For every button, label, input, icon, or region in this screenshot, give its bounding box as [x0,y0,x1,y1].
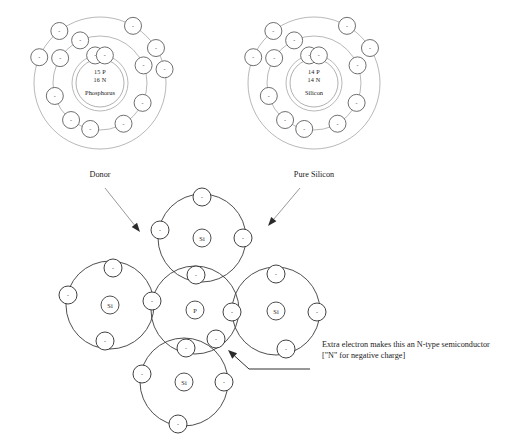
svg-text:-: - [195,272,197,278]
svg-text:-: - [275,271,277,277]
silicon-neutrons-label: 14 N [307,76,320,83]
lattice-electron-bond-right-p: - [223,303,241,321]
svg-text:-: - [159,227,161,233]
donor-electron-6: - [63,112,80,129]
annotation-leader-line [235,356,310,369]
semiconductor-figure: 15 P 16 N Phosphorus --------------- Don… [0,0,517,446]
doped-silicon-lattice: SiSiPSiSi ----------------- [59,188,326,433]
svg-text:-: - [285,346,287,352]
lattice-electron-si-left-north: - [104,259,122,277]
svg-text:-: - [185,345,187,351]
svg-text:-: - [123,121,125,127]
svg-text:-: - [215,336,217,342]
silicon-electron-4: - [266,50,283,67]
donor-electron-9: - [134,94,151,111]
svg-text:-: - [252,54,254,60]
lattice-core-p-center: P [186,301,204,319]
lattice-atom-cores: SiSiPSiSi [101,229,285,391]
lattice-electron-si-right-east: - [308,303,326,321]
donor-electron-15: - [156,61,173,78]
svg-text:-: - [112,265,114,271]
svg-text:-: - [272,28,274,34]
donor-electron-13: - [125,17,142,34]
svg-text:-: - [142,100,144,106]
svg-text:-: - [70,117,72,123]
donor-electron-4: - [52,50,69,67]
svg-text:-: - [273,55,275,61]
donor-electron-3: - [72,32,89,49]
svg-text:Si: Si [273,308,279,315]
svg-text:-: - [223,379,225,385]
svg-text:-: - [164,66,166,72]
donor-electron-8: - [115,115,132,132]
silicon-electron-12: - [245,49,262,66]
svg-text:Si: Si [181,379,187,386]
lattice-electron-si-bottom-west: - [133,365,151,383]
svg-text:-: - [177,421,179,427]
annotation-leader [228,350,310,369]
donor-electron-11: - [51,22,68,39]
donor-electron-12: - [31,49,48,66]
donor-electron-7: - [82,120,99,137]
svg-text:-: - [356,100,358,106]
lattice-core-si-top: Si [193,229,211,247]
svg-text:-: - [58,28,60,34]
silicon-electron-8: - [329,115,346,132]
svg-text:-: - [284,117,286,123]
svg-text:-: - [346,23,348,29]
lattice-core-si-left: Si [101,296,119,314]
svg-text:Si: Si [107,302,113,309]
svg-text:-: - [94,52,96,58]
svg-text:-: - [357,62,359,68]
silicon-electron-9: - [348,94,365,111]
arrow-donor-to-lattice [105,188,140,232]
svg-text:-: - [308,52,310,58]
svg-text:-: - [104,52,106,58]
donor-electron-14: - [147,40,164,57]
svg-text:-: - [293,37,295,43]
svg-text:-: - [151,298,153,304]
svg-text:-: - [67,292,69,298]
donor-electron-10: - [135,57,152,74]
svg-text:P: P [193,307,197,314]
lattice-electron-si-bottom-south: - [169,415,187,433]
lattice-electron-si-right-south: - [277,340,295,358]
donor-caption: Donor [90,170,111,179]
svg-text:-: - [369,45,371,51]
svg-text:-: - [141,371,143,377]
lattice-electron-si-left-west: - [59,286,77,304]
svg-text:-: - [54,93,56,99]
annotation-line-2: ["N" for negative charge] [322,351,405,360]
svg-text:-: - [303,126,305,132]
donor-protons-label: 15 P [94,68,106,75]
donor-neutrons-label: 16 N [93,76,106,83]
lattice-core-si-right: Si [267,302,285,320]
lattice-electron-bond-left-p: - [143,292,161,310]
svg-text:-: - [231,309,233,315]
svg-text:-: - [59,55,61,61]
lattice-electron-si-left-south: - [96,332,114,350]
silicon-electron-10: - [349,57,366,74]
svg-text:-: - [337,121,339,127]
svg-text:-: - [242,235,244,241]
silicon-electron-13: - [339,17,356,34]
lattice-electron-si-bottom-east: - [215,373,233,391]
svg-text:-: - [268,93,270,99]
arrow-silicon-to-lattice [268,188,300,226]
svg-text:-: - [132,23,134,29]
annotation-line-1: Extra electron makes this an N-type semi… [322,340,490,349]
lattice-electron-si-top-west: - [151,221,169,239]
donor-nucleus-circle [76,59,124,107]
svg-text:-: - [155,45,157,51]
donor-electron-5: - [46,87,63,104]
silicon-protons-label: 14 P [308,68,320,75]
atom-pure-silicon: 14 P 14 N Silicon -------------- Pure Si… [245,17,380,179]
silicon-electron-14: - [361,40,378,57]
lattice-electron-si-top-north: - [193,188,211,206]
silicon-electron-6: - [277,112,294,129]
lattice-electron-bond-bottom-p: - [177,339,195,357]
silicon-electron-11: - [265,22,282,39]
silicon-electron-3: - [286,32,303,49]
svg-text:-: - [89,126,91,132]
svg-text:Si: Si [199,235,205,242]
